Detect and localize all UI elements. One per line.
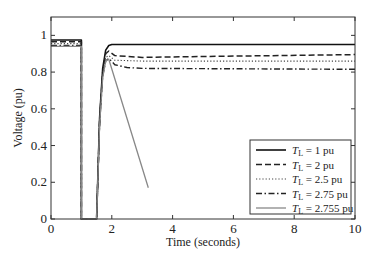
y-tick-label: 0 — [41, 211, 48, 226]
x-tick-label: 8 — [291, 221, 298, 236]
legend: TL = 1 puTL = 2 puTL = 2.5 puTL = 2.75 p… — [250, 140, 354, 216]
series-line — [51, 46, 148, 219]
y-tick-label: 0.6 — [31, 101, 48, 116]
x-tick-label: 2 — [109, 221, 116, 236]
x-tick-label: 0 — [48, 221, 55, 236]
y-tick-label: 0.4 — [31, 138, 48, 153]
x-tick-label: 4 — [169, 221, 176, 236]
y-axis-label: Voltage (pu) — [11, 88, 25, 147]
y-tick-label: 0.2 — [31, 174, 47, 189]
voltage-chart: 024681000.20.40.60.81 TL = 1 puTL = 2 pu… — [0, 0, 372, 264]
y-tick-label: 1 — [41, 27, 48, 42]
x-tick-label: 6 — [230, 221, 237, 236]
x-tick-label: 10 — [349, 221, 362, 236]
x-axis-label: Time (seconds) — [166, 235, 240, 249]
y-tick-label: 0.8 — [31, 64, 47, 79]
